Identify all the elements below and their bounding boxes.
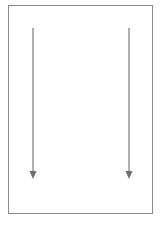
left-arrowhead-icon bbox=[30, 171, 37, 179]
right-arrowhead-icon bbox=[126, 171, 133, 179]
arrows-layer bbox=[0, 0, 164, 229]
left-down-arrow bbox=[30, 28, 37, 179]
right-down-arrow bbox=[126, 28, 133, 179]
